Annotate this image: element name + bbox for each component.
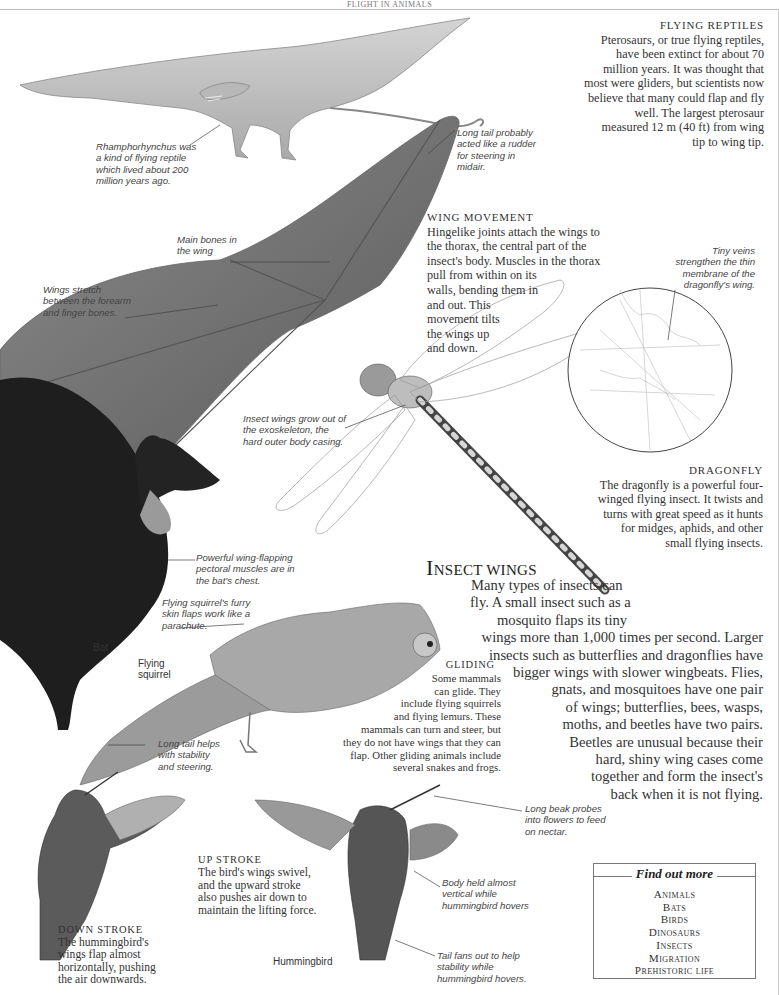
link-insects[interactable]: Insects bbox=[594, 939, 755, 952]
caption-long-tail-rudder: Long tail probably acted like a rudder f… bbox=[457, 127, 536, 173]
caption-line: Wings stretch bbox=[43, 284, 131, 295]
find-out-more-list: Animals Bats Birds Dinosaurs Insects Mig… bbox=[594, 888, 755, 977]
caption-line: Tail fans out to help bbox=[437, 950, 527, 961]
caption-line: for steering in bbox=[457, 150, 536, 161]
flying-reptiles-section: FLYING REPTILES Pterosaurs, or true flyi… bbox=[504, 18, 764, 149]
text-line: Many types of insects can bbox=[363, 577, 763, 594]
caption-line: Long beak probes bbox=[525, 803, 606, 814]
link-bats[interactable]: Bats bbox=[594, 901, 755, 914]
text-line: wings flap almost bbox=[58, 949, 198, 962]
caption-line: on nectar. bbox=[525, 826, 606, 837]
down-stroke-section: DOWN STROKE The hummingbird's wings flap… bbox=[58, 924, 198, 987]
link-animals[interactable]: Animals bbox=[594, 888, 755, 901]
find-out-more-title: Find out more bbox=[594, 866, 755, 882]
caption-tiny-veins: Tiny veins strengthen the thin membrane … bbox=[635, 245, 755, 291]
caption-line: Tiny veins bbox=[635, 245, 755, 256]
caption-body-held: Body held almost vertical while hummingb… bbox=[442, 877, 529, 911]
caption-wings-stretch: Wings stretch between the forearm and fi… bbox=[43, 284, 131, 318]
caption-pectoral-muscles: Powerful wing-flapping pectoral muscles … bbox=[196, 552, 295, 586]
caption-line: into flowers to feed bbox=[525, 814, 606, 825]
text-line: measured 12 m (40 ft) from wing bbox=[504, 120, 764, 135]
caption-long-beak: Long beak probes into flowers to feed on… bbox=[525, 803, 606, 837]
text-line: and out. This bbox=[427, 298, 627, 313]
caption-line: stability while bbox=[437, 961, 527, 972]
caption-line: the wing bbox=[177, 245, 237, 256]
caption-line: skin flaps work like a bbox=[162, 608, 250, 619]
caption-line: the exoskeleton, the bbox=[243, 424, 346, 435]
gliding-heading: GLIDING bbox=[240, 659, 501, 672]
text-line: Some mammals bbox=[240, 672, 501, 685]
text-line: include flying squirrels bbox=[240, 697, 501, 710]
text-line: small flying insects. bbox=[523, 536, 763, 551]
caption-line: membrane of the bbox=[635, 268, 755, 279]
caption-squirrel-skin: Flying squirrel's furry skin flaps work … bbox=[162, 597, 250, 631]
text-line: turns with great speed as it hunts bbox=[523, 507, 763, 522]
text-line: have been extinct for about 70 bbox=[504, 47, 764, 62]
caption-insect-wings-grow: Insect wings grow out of the exoskeleton… bbox=[243, 413, 346, 447]
down-stroke-heading: DOWN STROKE bbox=[58, 924, 198, 937]
text-line: pull from within on its bbox=[427, 268, 627, 283]
find-out-more-title-text: Find out more bbox=[632, 866, 717, 881]
text-line: back when it is not flying. bbox=[363, 786, 763, 803]
caption-line: vertical while bbox=[442, 888, 529, 899]
text-line: several snakes and frogs. bbox=[240, 761, 501, 774]
caption-line: a kind of flying reptile bbox=[96, 152, 196, 163]
link-migration[interactable]: Migration bbox=[594, 952, 755, 965]
up-stroke-section: UP STROKE The bird's wings swivel, and t… bbox=[198, 854, 368, 918]
caption-line: strengthen the thin bbox=[635, 256, 755, 267]
caption-line: dragonfly's wing. bbox=[635, 279, 755, 290]
up-stroke-heading: UP STROKE bbox=[198, 854, 368, 867]
caption-tail-fans: Tail fans out to help stability while hu… bbox=[437, 950, 527, 984]
caption-line: between the forearm bbox=[43, 295, 131, 306]
caption-line: hard outer body casing. bbox=[243, 436, 346, 447]
text-line: the thorax, the central part of the bbox=[427, 239, 627, 254]
caption-line: acted like a rudder bbox=[457, 138, 536, 149]
text-line: most were gliders, but scientists now bbox=[504, 76, 764, 91]
text-line: million years. It was thought that bbox=[504, 62, 764, 77]
caption-line: with stability bbox=[158, 749, 220, 760]
gliding-section: GLIDING Some mammals can glide. They inc… bbox=[240, 659, 501, 774]
find-out-more-box: Find out more Animals Bats Birds Dinosau… bbox=[593, 863, 756, 979]
caption-line: which lived about 200 bbox=[96, 164, 196, 175]
flying-reptiles-heading: FLYING REPTILES bbox=[504, 18, 764, 33]
text-line: they do not have wings that they can bbox=[240, 736, 501, 749]
caption-line: and finger bones. bbox=[43, 307, 131, 318]
text-line: winged flying insect. It twists and bbox=[523, 492, 763, 507]
link-dinosaurs[interactable]: Dinosaurs bbox=[594, 926, 755, 939]
label-flying-squirrel: Flying squirrel bbox=[138, 658, 171, 680]
text-line: flap. Other gliding animals include bbox=[240, 749, 501, 762]
text-line: and flying lemurs. These bbox=[240, 710, 501, 723]
caption-line: Main bones in bbox=[177, 234, 237, 245]
text-line: fly. A small insect such as a bbox=[363, 594, 763, 611]
text-line: The bird's wings swivel, bbox=[198, 867, 368, 880]
caption-line: hummingbird hovers. bbox=[437, 973, 527, 984]
dragonfly-section: DRAGONFLY The dragonfly is a powerful fo… bbox=[523, 463, 763, 551]
caption-line: Body held almost bbox=[442, 877, 529, 888]
wing-movement-section: WING MOVEMENT Hingelike joints attach th… bbox=[427, 210, 627, 356]
text-line: tip to wing tip. bbox=[504, 135, 764, 150]
text-line: the air downwards. bbox=[58, 974, 198, 987]
text-line: and down. bbox=[427, 341, 627, 356]
text-line: Pterosaurs, or true flying reptiles, bbox=[504, 33, 764, 48]
text-line: Hingelike joints attach the wings to bbox=[427, 225, 627, 240]
caption-line: Long tail helps bbox=[158, 738, 220, 749]
text-line: believe that many could flap and fly bbox=[504, 91, 764, 106]
caption-line: parachute. bbox=[162, 620, 250, 631]
title-rest: NSECT WINGS bbox=[434, 562, 537, 578]
caption-line: and steering. bbox=[158, 761, 220, 772]
dragonfly-heading: DRAGONFLY bbox=[523, 463, 763, 478]
link-prehistoric-life[interactable]: Prehistoric life bbox=[594, 964, 755, 977]
caption-line: Rhamphorhynchus was bbox=[96, 141, 196, 152]
label-bat: Bat bbox=[93, 642, 108, 653]
wing-movement-heading: WING MOVEMENT bbox=[427, 210, 627, 225]
label-line: squirrel bbox=[138, 669, 171, 680]
link-birds[interactable]: Birds bbox=[594, 913, 755, 926]
caption-line: Powerful wing-flapping bbox=[196, 552, 295, 563]
text-line: The dragonfly is a powerful four- bbox=[523, 478, 763, 493]
caption-line: Flying squirrel's furry bbox=[162, 597, 250, 608]
caption-line: Insect wings grow out of bbox=[243, 413, 346, 424]
label-line: Flying bbox=[138, 658, 171, 669]
text-line: wings more than 1,000 times per second. … bbox=[363, 629, 763, 646]
caption-line: midair. bbox=[457, 161, 536, 172]
header-rule bbox=[0, 9, 779, 10]
